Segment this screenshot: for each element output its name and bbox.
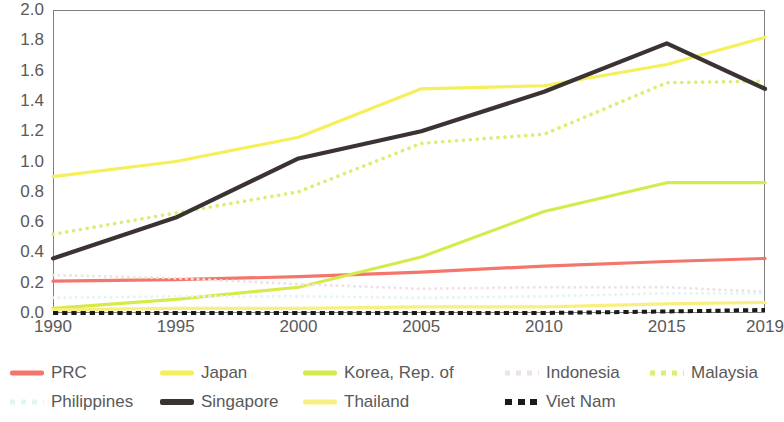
legend-item-japan[interactable]: Japan xyxy=(160,358,247,387)
legend-row: PhilippinesSingaporeThailandViet Nam xyxy=(0,387,772,416)
x-axis-tick-label: 2010 xyxy=(525,317,563,337)
series-line xyxy=(53,37,765,176)
legend-label: Malaysia xyxy=(691,363,758,382)
y-axis-tick-label: 0.4 xyxy=(20,243,44,260)
y-axis-tick-label: 0.8 xyxy=(20,183,44,200)
legend-label: Korea, Rep. of xyxy=(344,363,454,382)
series-line xyxy=(53,43,765,258)
legend-swatch-icon xyxy=(10,366,44,380)
legend-swatch-icon xyxy=(505,366,539,380)
legend-item-philippines[interactable]: Philippines xyxy=(10,387,133,416)
legend-row: PRCJapanKorea, Rep. ofIndonesiaMalaysia xyxy=(0,358,772,387)
chart-legend: PRCJapanKorea, Rep. ofIndonesiaMalaysia … xyxy=(0,358,772,420)
legend-label: PRC xyxy=(51,363,87,382)
series-line xyxy=(53,310,765,313)
legend-label: Japan xyxy=(201,363,247,382)
x-axis-tick-label: 1995 xyxy=(157,317,195,337)
legend-item-viet-nam[interactable]: Viet Nam xyxy=(505,387,616,416)
series-line xyxy=(53,302,765,310)
legend-item-prc[interactable]: PRC xyxy=(10,358,87,387)
y-axis-tick-label: 1.4 xyxy=(20,92,44,109)
legend-swatch-icon xyxy=(10,395,44,409)
series-line xyxy=(53,183,765,309)
legend-item-malaysia[interactable]: Malaysia xyxy=(650,358,758,387)
y-axis-tick-label: 1.0 xyxy=(20,153,44,170)
x-axis-tick-label: 2005 xyxy=(402,317,440,337)
legend-swatch-icon xyxy=(505,395,539,409)
legend-label: Viet Nam xyxy=(546,392,616,411)
y-axis-tick-label: 1.2 xyxy=(20,122,44,139)
series-line xyxy=(53,293,765,298)
legend-label: Indonesia xyxy=(546,363,620,382)
legend-swatch-icon xyxy=(650,366,684,380)
legend-label: Singapore xyxy=(201,392,279,411)
y-axis-tick-label: 0.2 xyxy=(20,274,44,291)
x-axis-tick-label: 1990 xyxy=(34,317,72,337)
legend-swatch-icon xyxy=(160,366,194,380)
x-axis-tick-label: 2015 xyxy=(648,317,686,337)
legend-item-singapore[interactable]: Singapore xyxy=(160,387,279,416)
legend-swatch-icon xyxy=(160,395,194,409)
legend-label: Thailand xyxy=(344,392,409,411)
y-axis-tick-label: 1.6 xyxy=(20,62,44,79)
x-axis-tick-label: 2000 xyxy=(280,317,318,337)
legend-item-korea-rep-of[interactable]: Korea, Rep. of xyxy=(303,358,454,387)
legend-item-indonesia[interactable]: Indonesia xyxy=(505,358,620,387)
y-axis: 0.00.20.40.60.81.01.21.41.61.82.0 xyxy=(0,0,48,323)
x-axis-tick-label: 2019 xyxy=(746,317,784,337)
y-axis-tick-label: 2.0 xyxy=(20,1,44,18)
plot-series-canvas xyxy=(53,10,765,313)
legend-label: Philippines xyxy=(51,392,133,411)
legend-swatch-icon xyxy=(303,366,337,380)
series-line xyxy=(53,275,765,292)
series-line xyxy=(53,81,765,234)
series-line xyxy=(53,258,765,281)
y-axis-tick-label: 1.8 xyxy=(20,31,44,48)
y-axis-tick-label: 0.6 xyxy=(20,213,44,230)
legend-swatch-icon xyxy=(303,395,337,409)
x-axis: 1990199520002005201020152019 xyxy=(53,317,765,345)
legend-item-thailand[interactable]: Thailand xyxy=(303,387,409,416)
